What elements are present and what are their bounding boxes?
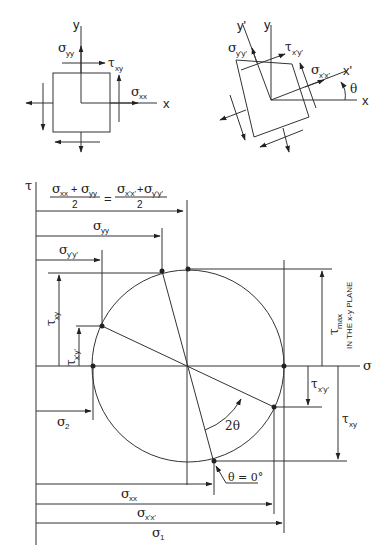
- point-sigma-2: [91, 364, 96, 369]
- tau-xpyp-top-arrow-icon: [241, 54, 285, 70]
- svg-text:τ: τ: [342, 412, 349, 426]
- svg-text:+: +: [71, 183, 77, 195]
- plane-note: IN THE x-y PLANE: [345, 282, 354, 349]
- mohr-circle-group: [36, 182, 360, 545]
- tau-axis-label: τ: [25, 178, 32, 193]
- svg-text:xx: xx: [139, 92, 147, 101]
- label-dim-tau-max: τ max: [327, 314, 344, 335]
- label-sigma-yy: σ yy: [58, 40, 74, 58]
- sigma-bottom-rotated-arrow-icon: [283, 128, 289, 152]
- label-sigma-ypyp: σ y'y': [228, 40, 248, 58]
- svg-text:x'y': x'y': [318, 385, 330, 394]
- svg-text:yy: yy: [66, 49, 74, 58]
- svg-text:xy: xy: [349, 420, 357, 429]
- rotated-square: [236, 60, 309, 137]
- label-dim-sigma-xpxp: σ x'x': [137, 505, 157, 522]
- y-axis-label-rotated: y: [264, 17, 271, 32]
- svg-text:τ: τ: [311, 377, 318, 391]
- center-formula: σ xx + σ yy 2 = σ x'x' + σ y'y' 2: [50, 181, 167, 210]
- sigma-xpxp-arrow-icon: [305, 80, 324, 87]
- theta-label: θ: [350, 82, 357, 96]
- point-yy: [160, 269, 165, 274]
- svg-text:max: max: [335, 314, 344, 329]
- y-axis-label: y: [73, 17, 80, 32]
- label-sigma-xx: σ xx: [131, 84, 147, 101]
- svg-text:y'y': y'y': [236, 49, 248, 58]
- theta-zero-label: θ = 0°: [228, 471, 263, 484]
- sigma-axis-label: σ: [363, 358, 372, 373]
- theta-zero-leader-icon: [216, 466, 226, 483]
- point-tau-max: [186, 267, 191, 272]
- label-tau-xpyp: τ x'y': [285, 40, 304, 57]
- svg-text:=: =: [104, 191, 112, 206]
- point-ypyp: [100, 324, 105, 329]
- label-dim-tau-xy-left: τ xy: [44, 312, 61, 326]
- svg-text:2: 2: [72, 199, 78, 210]
- svg-text:2: 2: [65, 422, 70, 431]
- svg-text:xy: xy: [52, 312, 61, 320]
- point-xx: [212, 459, 217, 464]
- label-dim-sigma-yy: σ yy: [93, 218, 109, 235]
- two-theta-label: 2θ: [225, 419, 240, 433]
- svg-text:yy: yy: [101, 226, 109, 235]
- svg-text:x'x': x'x': [145, 513, 157, 522]
- label-dim-sigma-2: σ 2: [57, 414, 70, 431]
- point-xpxp: [272, 405, 277, 410]
- svg-text:τ: τ: [108, 56, 115, 70]
- tau-left-rotated-arrow-icon: [230, 95, 245, 140]
- svg-text:x'y': x'y': [72, 348, 81, 360]
- theta-arc-icon: [341, 82, 345, 100]
- label-dim-tau-xy-right: τ xy: [342, 412, 357, 429]
- label-tau-xy: τ xy: [108, 56, 123, 73]
- label-dim-sigma-xx: σ xx: [121, 486, 137, 503]
- svg-text:xy: xy: [115, 64, 123, 73]
- label-dim-sigma-1: σ 1: [152, 525, 165, 542]
- svg-text:y'y': y'y': [67, 250, 79, 259]
- svg-text:1: 1: [160, 533, 165, 542]
- sigma-xpxp-left-arrow-icon: [220, 110, 246, 120]
- svg-text:x'y': x'y': [292, 48, 304, 57]
- label-dim-sigma-ypyp: σ y'y': [59, 242, 79, 259]
- x-axis-label: x: [163, 96, 170, 111]
- svg-text:2: 2: [137, 199, 143, 210]
- xp-axis-label: x': [343, 63, 352, 78]
- svg-text:+: +: [137, 183, 143, 195]
- mohrs-circle-diagram: y x σ yy τ xy σ xx: [0, 0, 384, 558]
- label-dim-tau-xpyp-left: τ x'y': [64, 348, 81, 366]
- yp-axis-label: y': [237, 18, 246, 33]
- x-axis-label-rotated: x: [362, 93, 369, 108]
- point-sigma-1: [282, 364, 287, 369]
- label-dim-tau-xpyp-right: τ x'y': [311, 377, 330, 394]
- label-sigma-xpxp: σ x'x': [311, 62, 331, 80]
- svg-text:xx: xx: [129, 494, 137, 503]
- svg-text:τ: τ: [285, 40, 292, 54]
- svg-text:x'x': x'x': [319, 71, 331, 80]
